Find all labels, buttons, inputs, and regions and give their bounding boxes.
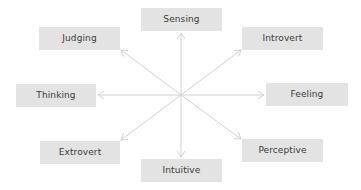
- node-sensing: Sensing: [141, 8, 222, 31]
- node-extrovert: Extrovert: [40, 141, 120, 164]
- personality-dimensions-diagram: Sensing Introvert Feeling Perceptive Int…: [0, 0, 361, 190]
- node-label: Sensing: [163, 14, 199, 24]
- node-label: Feeling: [291, 89, 324, 99]
- node-perceptive: Perceptive: [242, 139, 323, 162]
- node-label: Intuitive: [163, 165, 201, 175]
- node-label: Perceptive: [258, 145, 306, 155]
- node-thinking: Thinking: [16, 84, 96, 107]
- node-label: Thinking: [36, 90, 75, 100]
- arrow-to-extrovert: [121, 95, 181, 140]
- arrow-to-perceptive: [181, 95, 241, 139]
- arrow-group: [98, 33, 264, 157]
- node-introvert: Introvert: [242, 27, 323, 50]
- arrow-to-judging: [121, 50, 181, 95]
- node-feeling: Feeling: [266, 83, 348, 106]
- node-judging: Judging: [39, 27, 120, 50]
- arrow-to-introvert: [181, 50, 241, 95]
- node-label: Extrovert: [59, 147, 102, 157]
- node-intuitive: Intuitive: [141, 159, 222, 182]
- node-label: Judging: [62, 33, 96, 43]
- node-label: Introvert: [263, 33, 303, 43]
